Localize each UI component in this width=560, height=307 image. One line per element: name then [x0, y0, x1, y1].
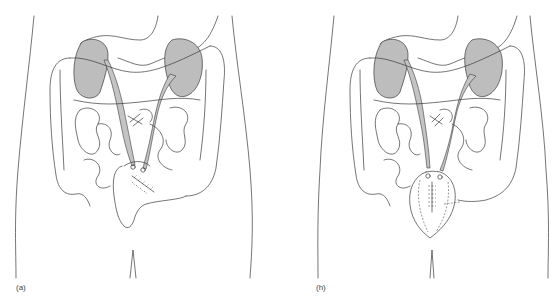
right-kidney [374, 39, 408, 98]
abdomen-illustration-h [280, 0, 560, 307]
abdomen-illustration-a [0, 0, 280, 307]
rectal-pouch [410, 171, 456, 238]
right-ureter [104, 60, 135, 166]
panel-a: (a) [0, 0, 280, 307]
panel-h: (h) [280, 0, 560, 307]
right-ureter [404, 60, 430, 168]
left-kidney [465, 39, 503, 97]
panel-label-a: (a) [16, 283, 26, 292]
left-kidney [165, 39, 203, 97]
right-kidney [74, 39, 108, 98]
panel-label-h: (h) [316, 283, 326, 292]
